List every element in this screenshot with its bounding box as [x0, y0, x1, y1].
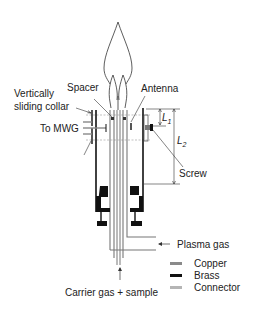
brass-swatch — [170, 274, 182, 277]
label-l1: L1 — [162, 112, 171, 127]
label-carrier-gas: Carrier gas + sample — [65, 287, 158, 298]
connector-swatch — [170, 286, 182, 289]
spacer — [111, 117, 114, 120]
copper-swatch — [170, 262, 182, 265]
legend-brass: Brass — [194, 270, 220, 281]
legend-copper: Copper — [194, 258, 227, 269]
label-l2: L2 — [177, 135, 186, 150]
label-line-2: sliding collar — [14, 101, 69, 112]
label-vertically-sliding-collar: Vertically sliding collar — [14, 88, 69, 112]
label-spacer: Spacer — [67, 82, 99, 93]
label-line-1: Vertically — [14, 88, 69, 99]
label-to-mwg: To MWG — [40, 123, 79, 134]
brass-fitting-right — [130, 186, 139, 195]
flame-outer — [104, 22, 132, 84]
label-antenna: Antenna — [141, 83, 178, 94]
legend-connector: Connector — [194, 282, 240, 293]
flame-inner-right — [119, 75, 127, 108]
flame-inner-left — [109, 75, 117, 108]
l2-sub: 2 — [183, 141, 187, 148]
antenna — [130, 123, 132, 130]
l1-sub: 1 — [168, 118, 172, 125]
label-plasma-gas: Plasma gas — [177, 239, 229, 250]
screw — [145, 125, 150, 130]
label-screw: Screw — [179, 168, 207, 179]
